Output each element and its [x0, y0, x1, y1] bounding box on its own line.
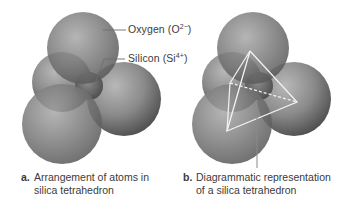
- panel-b-atoms: [192, 12, 331, 164]
- caption-b: b.Diagrammatic representation of a silic…: [183, 171, 331, 196]
- silicon-label: Silicon (Si4+): [128, 52, 188, 64]
- silicon-charge: 4+: [176, 52, 184, 59]
- silicon-label-text: Silicon (Si: [128, 52, 176, 64]
- oxygen-atom-top: [47, 12, 119, 84]
- oxygen-atom-bottom-left: [22, 84, 102, 164]
- caption-a-line2: silica tetrahedron: [21, 184, 149, 197]
- oxygen-label-text: Oxygen (O: [128, 23, 180, 35]
- oxygen-charge: 2−: [180, 23, 188, 30]
- caption-b-line1: Diagrammatic representation: [196, 171, 331, 183]
- oxygen-label: Oxygen (O2−): [128, 23, 191, 35]
- caption-a-line1: Arrangement of atoms in: [34, 171, 149, 183]
- silica-tetrahedron-figure: Oxygen (O2−) Silicon (Si4+) a.Arrangemen…: [0, 0, 353, 203]
- oxygen-label-close: ): [188, 23, 192, 35]
- caption-b-letter: b.: [183, 171, 196, 184]
- caption-a-letter: a.: [21, 171, 34, 184]
- caption-b-line2: of a silica tetrahedron: [183, 184, 331, 197]
- caption-a: a.Arrangement of atoms in silica tetrahe…: [21, 171, 149, 196]
- silicon-label-close: ): [184, 52, 188, 64]
